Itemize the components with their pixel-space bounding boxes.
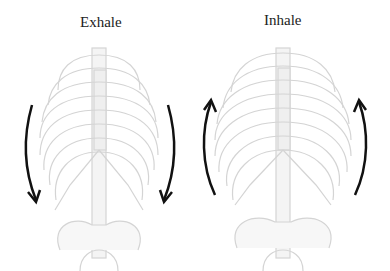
exhale-ribcage-illustration [0,0,195,271]
exhale-ribcage-panel [0,0,195,271]
inhale-ribcage-illustration [195,0,390,271]
inhale-ribcage-panel [195,0,390,271]
